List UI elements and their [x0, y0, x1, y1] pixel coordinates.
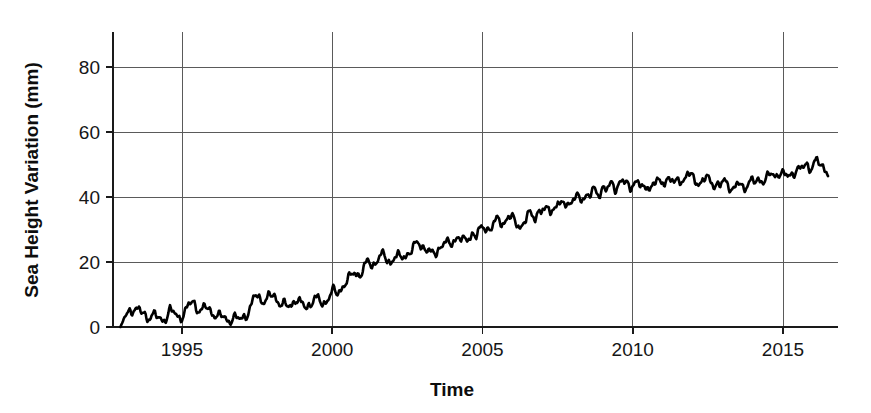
y-tick-label: 0 — [89, 317, 100, 338]
y-tick-label: 80 — [79, 57, 100, 78]
chart-canvas: 020406080 19952000200520102015 Time Sea … — [0, 0, 871, 413]
x-tick-label: 2015 — [762, 339, 804, 360]
x-tick-label: 2000 — [311, 339, 353, 360]
sea-level-chart: 020406080 19952000200520102015 Time Sea … — [0, 0, 871, 413]
x-axis-title: Time — [430, 379, 474, 400]
x-tick-label: 1995 — [161, 339, 203, 360]
y-tick-label: 60 — [79, 122, 100, 143]
x-tick-label: 2010 — [612, 339, 654, 360]
chart-background — [0, 0, 871, 413]
y-tick-label: 40 — [79, 187, 100, 208]
y-tick-label: 20 — [79, 252, 100, 273]
y-axis-title: Sea Height Variation (mm) — [21, 62, 42, 297]
x-tick-label: 2005 — [461, 339, 503, 360]
